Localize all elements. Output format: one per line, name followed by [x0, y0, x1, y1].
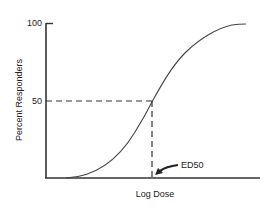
y-axis-label: Percent Responders [14, 58, 24, 141]
x-axis-label: Log Dose [136, 189, 175, 199]
ed50-label: ED50 [181, 160, 204, 170]
ed50-arrow-shaft [160, 165, 178, 171]
dose-response-chart: 100 50 Percent Responders Log Dose ED50 [0, 0, 270, 206]
dose-response-curve [66, 24, 246, 178]
y-tick-label-50: 50 [32, 96, 42, 106]
y-tick-label-100: 100 [27, 18, 42, 28]
